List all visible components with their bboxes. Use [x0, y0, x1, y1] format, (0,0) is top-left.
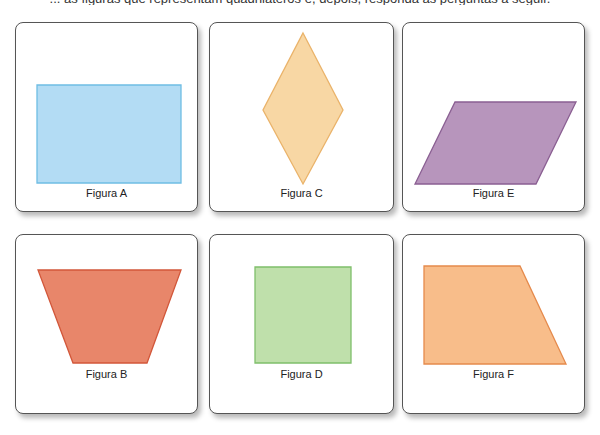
rectangle-polygon	[37, 85, 181, 183]
parallelogram-polygon	[415, 102, 576, 184]
isosceles-trapezoid-shape	[16, 235, 199, 415]
figure-card-b: Figura B	[15, 234, 198, 414]
square-shape	[210, 235, 395, 415]
rectangle-shape	[16, 23, 199, 213]
figure-label: Figura C	[210, 187, 393, 199]
rhombus-polygon	[263, 33, 343, 184]
figure-label: Figura A	[16, 187, 197, 199]
cut-off-instruction-text: ... as figuras que representam quadrilát…	[0, 0, 600, 5]
figure-card-c: Figura C	[209, 22, 394, 212]
figure-card-f: Figura F	[402, 234, 585, 414]
parallelogram-shape	[403, 23, 586, 213]
right-trapezoid-shape	[403, 235, 586, 415]
figure-card-e: Figura E	[402, 22, 585, 212]
figure-label: Figura F	[403, 368, 584, 380]
isosceles-trapezoid-polygon	[38, 270, 181, 363]
figure-label: Figura D	[210, 368, 393, 380]
figure-card-a: Figura A	[15, 22, 198, 212]
figure-label: Figura E	[403, 187, 584, 199]
rhombus-shape	[210, 23, 395, 213]
figure-card-d: Figura D	[209, 234, 394, 414]
figure-label: Figura B	[16, 368, 197, 380]
square-polygon	[255, 267, 351, 363]
right-trapezoid-polygon	[424, 266, 566, 364]
